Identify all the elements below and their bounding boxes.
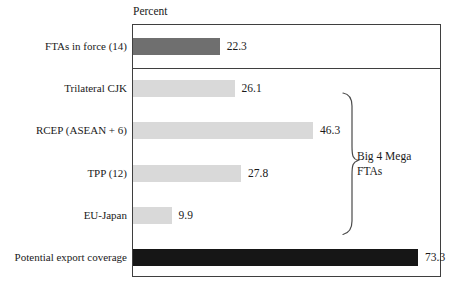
bar-eu-japan (133, 207, 172, 224)
category-label: RCEP (ASEAN + 6) (36, 122, 127, 139)
bar-tpp-12 (133, 165, 241, 182)
bar-trilateral-cjk (133, 80, 235, 97)
value-label: 22.3 (227, 38, 247, 55)
category-label: Potential export coverage (15, 249, 127, 266)
value-label: 73.3 (425, 249, 445, 266)
category-label: FTAs in force (14) (45, 38, 127, 55)
group-label: Big 4 Mega FTAs (357, 149, 411, 179)
bar-rcep-asean-6 (133, 122, 313, 139)
category-label: Trilateral CJK (64, 80, 127, 97)
fta-bar-chart: Percent 22.326.146.327.89.973.3 Big 4 Me… (0, 0, 455, 296)
axis-unit-label: Percent (133, 5, 167, 17)
bar-ftas-in-force-14 (133, 38, 220, 55)
value-label: 27.8 (248, 165, 268, 182)
category-label: EU-Japan (84, 207, 127, 224)
bar-potential-export-coverage (133, 249, 418, 266)
category-label: TPP (12) (87, 165, 127, 182)
section-divider-line (133, 68, 440, 69)
value-label: 26.1 (242, 80, 262, 97)
group-label-line-2: FTAs (357, 164, 411, 179)
group-brace-path (343, 93, 358, 235)
group-label-line-1: Big 4 Mega (357, 149, 411, 164)
value-label: 9.9 (179, 207, 193, 224)
